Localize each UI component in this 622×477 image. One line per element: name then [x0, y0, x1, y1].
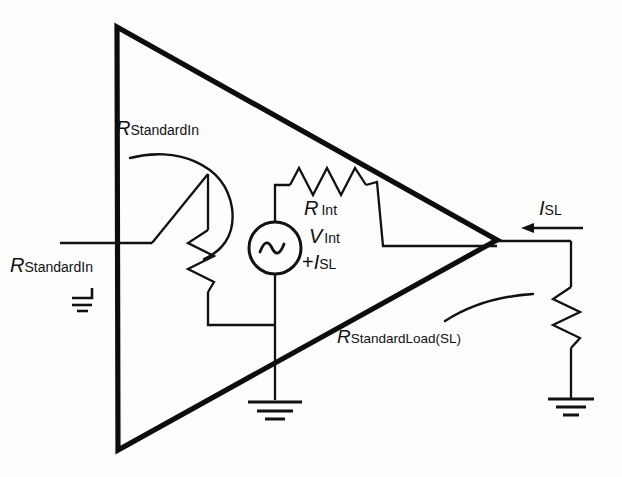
internal-resistor-right-lead [366, 182, 497, 246]
label-r-standard-load-subscript: StandardLoad(SL) [351, 331, 461, 346]
internal-resistor-zigzag [290, 168, 366, 195]
label-r-int-subscript: Int [321, 202, 337, 218]
circuit-diagram-canvas: RStandardIn RStandardIn RInt VInt +ISL I… [0, 0, 622, 477]
label-r-standard-load: RStandardLoad(SL) [337, 327, 461, 346]
input-resistor-top-lead [152, 174, 208, 243]
ac-source-sine-icon [260, 243, 284, 253]
label-r-int-symbol: R [304, 197, 318, 219]
label-r-standard-in-inner-symbol: R [116, 117, 130, 139]
label-v-int: VInt [309, 226, 340, 246]
label-i-sl: ISL [539, 198, 562, 218]
input-resistor-bottom-lead [208, 292, 275, 325]
label-r-standard-in-outer-subscript: StandardIn [24, 259, 93, 275]
amplifier-triangle [117, 27, 497, 450]
label-v-int-subscript: Int [324, 230, 340, 246]
label-i-sl-subscript: SL [545, 202, 562, 218]
label-r-standard-in-inner: RStandardIn [116, 118, 199, 138]
label-r-standard-in-inner-subscript: StandardIn [130, 122, 199, 138]
label-plus-i-sl: +ISL [302, 252, 336, 272]
load-resistor-zigzag [553, 287, 580, 348]
label-r-standard-load-symbol: R [337, 326, 351, 347]
label-r-standard-in-outer-symbol: R [10, 254, 24, 276]
label-plus-i-sl-prefix: + [302, 251, 314, 273]
ac-source-circle [249, 222, 301, 274]
label-r-standard-in-outer: RStandardIn [10, 255, 93, 275]
ac-source-top-lead [275, 185, 290, 222]
input-resistor-zigzag [188, 230, 214, 292]
label-plus-i-sl-subscript: SL [319, 256, 336, 272]
input-ground-stem [72, 288, 92, 298]
label-r-int: RInt [304, 198, 337, 218]
label-v-int-symbol: V [309, 225, 322, 247]
r-standard-load-leader [445, 294, 533, 321]
i-sl-arrow-head [521, 223, 534, 233]
